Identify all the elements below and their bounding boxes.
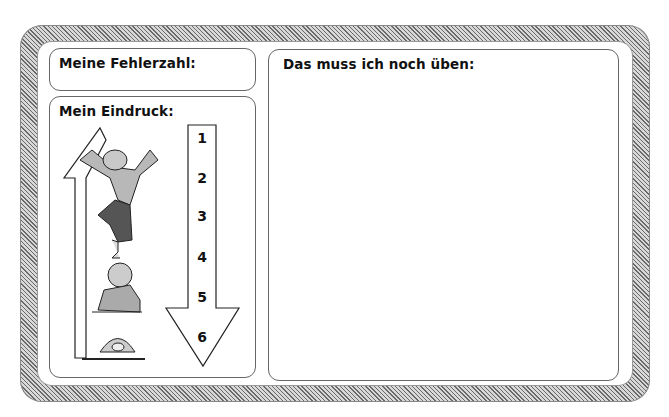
impression-graphics	[0, 0, 669, 417]
scale-value-4[interactable]: 4	[188, 249, 216, 265]
scale-value-3[interactable]: 3	[188, 208, 216, 224]
scale-value-2[interactable]: 2	[188, 170, 216, 186]
hiding-man-icon	[82, 339, 145, 360]
scale-value-1[interactable]: 1	[188, 130, 216, 146]
phoning-man-icon	[92, 263, 142, 312]
scale-value-5[interactable]: 5	[188, 289, 216, 305]
scale-value-6[interactable]: 6	[188, 329, 216, 345]
cheering-man-icon	[80, 150, 158, 258]
